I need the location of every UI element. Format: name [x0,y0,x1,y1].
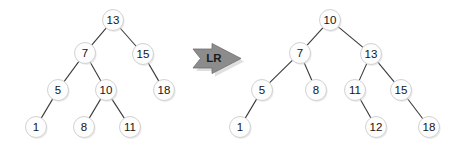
node-circle [230,117,251,138]
tree-edge [304,62,312,81]
diagram-canvas: 13715510181811 1071358111511218 LR [0,0,458,152]
tree-edge [111,98,124,118]
tree-edge [91,28,106,46]
before-tree-edges [41,28,159,119]
tree-node: 12 [366,117,387,138]
tree-node: 10 [96,80,117,101]
tree-node: 15 [133,44,154,65]
tree-node: 7 [75,43,96,64]
node-circle [306,80,327,101]
node-circle [391,80,412,101]
tree-edge [90,62,101,82]
tree-node: 7 [290,43,311,64]
tree-edge [359,63,367,81]
tree-node: 1 [230,117,251,138]
node-circle [75,43,96,64]
node-circle [320,10,341,31]
tree-edge [360,99,371,119]
node-circle [103,10,124,31]
node-circle [26,117,47,138]
tree-node: 15 [391,80,412,101]
tree-node: 8 [306,80,327,101]
node-circle [133,44,154,65]
tree-edge [407,98,423,119]
tree-edge [377,62,394,83]
tree-node: 1 [26,117,47,138]
node-circle [419,117,440,138]
node-circle [366,117,387,138]
tree-edge [120,28,137,47]
node-circle [48,80,69,101]
node-circle [252,80,273,101]
tree-node: 5 [48,80,69,101]
node-circle [74,117,95,138]
tree-node: 18 [419,117,440,138]
tree-node: 11 [345,80,366,101]
node-circle [154,80,175,101]
tree-edge [338,26,364,47]
tree-edge [307,27,324,45]
node-circle [361,44,382,65]
node-circle [290,43,311,64]
node-circle [120,117,141,138]
after-tree-edges [245,26,423,119]
tree-edge [64,61,79,82]
tree-node: 11 [120,117,141,138]
after-tree-nodes: 1071358111511218 [230,10,441,140]
tree-node: 13 [361,44,382,65]
tree-edge [245,99,257,119]
tree-node: 5 [252,80,273,101]
before-tree-nodes: 13715510181811 [26,10,176,140]
node-circle [345,80,366,101]
tree-edge [269,60,293,83]
tree-node: 18 [154,80,175,101]
tree-node: 13 [103,10,124,31]
tree-rotation-diagram: 13715510181811 1071358111511218 LR [0,0,458,152]
tree-edge [148,63,159,82]
tree-node: 10 [320,10,341,31]
tree-edge [89,99,101,119]
tree-node: 8 [74,117,95,138]
lr-rotation-arrow: LR [193,44,244,77]
tree-edge [41,99,53,119]
node-circle [96,80,117,101]
